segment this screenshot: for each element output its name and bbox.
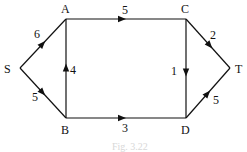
edge-weight-c-d: 1 xyxy=(171,64,177,78)
arrowhead-icon xyxy=(63,64,69,72)
edge-weight-c-t: 2 xyxy=(210,28,216,42)
node-s: S xyxy=(4,62,11,76)
edge-weight-s-b: 5 xyxy=(32,90,38,104)
node-c: C xyxy=(181,2,189,16)
caption: Fig. 3.22 xyxy=(112,141,148,152)
network-diagram: 65453125SABCDT Fig. 3.22 xyxy=(0,0,247,152)
arrowhead-icon xyxy=(183,68,189,76)
node-a: A xyxy=(61,2,70,16)
node-b: B xyxy=(61,123,69,137)
edge-weight-b-a: 4 xyxy=(70,63,76,77)
edge-weight-d-t: 5 xyxy=(213,93,219,107)
node-t: T xyxy=(235,62,243,76)
node-d: D xyxy=(181,123,190,137)
edge-weight-b-d: 3 xyxy=(122,121,128,135)
edge-weight-a-c: 5 xyxy=(122,3,128,17)
edge-weight-s-a: 6 xyxy=(34,27,40,41)
